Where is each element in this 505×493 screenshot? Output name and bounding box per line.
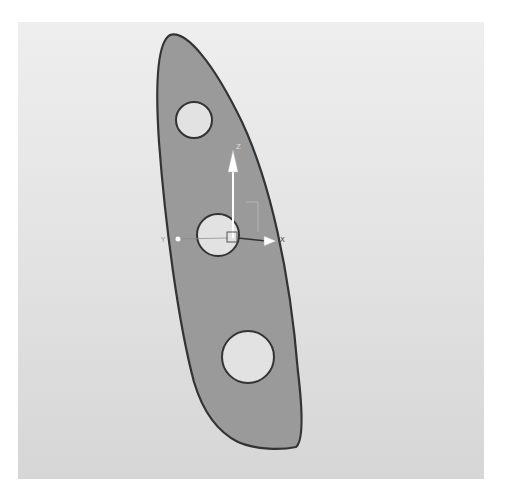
top-hole[interactable] xyxy=(176,102,212,138)
part-model[interactable] xyxy=(18,22,484,479)
y-axis-arrow-icon xyxy=(176,237,181,242)
graphics-viewport[interactable]: X Y Z xyxy=(18,22,484,479)
z-axis-label: Z xyxy=(236,144,241,151)
bottom-hole[interactable] xyxy=(222,331,274,383)
x-axis-label: X xyxy=(280,237,285,244)
y-axis-label: Y xyxy=(161,237,165,244)
